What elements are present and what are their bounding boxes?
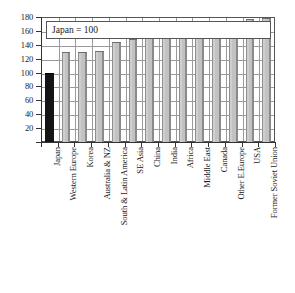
y-tick-60 xyxy=(36,100,41,101)
y-axis-line xyxy=(41,17,42,143)
y-tick-label-140: 140 xyxy=(21,41,33,50)
x-label-other-e-europe: Other E.Europe xyxy=(237,147,246,200)
x-label-south-latin-america: South & Latin America xyxy=(120,147,129,225)
y-tick-label-60: 60 xyxy=(25,96,33,105)
x-label-australia-nz: Australia & NZ xyxy=(103,147,112,200)
bar-africa xyxy=(179,36,188,142)
x-label-japan: Japan xyxy=(53,147,62,166)
y-tick-label-180: 180 xyxy=(21,13,33,22)
x-label-usa: USA xyxy=(253,147,262,164)
y-tick-label-100: 100 xyxy=(21,69,33,78)
x-axis-labels: JapanWestern EuropeKoreaAustralia & NZSo… xyxy=(41,147,275,293)
bar-chart: Japan = 100 20406080100120140160180 Japa… xyxy=(0,0,295,293)
y-tick-120 xyxy=(36,59,41,60)
bar-other-e-europe xyxy=(229,26,238,142)
y-tick-40 xyxy=(36,114,41,115)
bar-south-latin-america xyxy=(112,42,121,142)
x-label-canada: Canada xyxy=(220,147,229,172)
bar-japan xyxy=(45,73,54,142)
x-label-africa: Africa xyxy=(186,147,195,168)
y-tick-140 xyxy=(36,45,41,46)
x-label-se-asia: SE Asia xyxy=(136,147,145,174)
annotation-box: Japan = 100 xyxy=(46,21,271,39)
y-tick-label-20: 20 xyxy=(25,124,33,133)
y-tick-80 xyxy=(36,86,41,87)
bar-india xyxy=(162,36,171,142)
bar-australia-nz xyxy=(95,51,104,142)
x-label-middle-east: Middle East xyxy=(203,147,212,188)
y-tick-label-40: 40 xyxy=(25,110,33,119)
y-tick-160 xyxy=(36,31,41,32)
y-tick-100 xyxy=(36,73,41,74)
y-tick-20 xyxy=(36,128,41,129)
y-tick-label-80: 80 xyxy=(25,82,33,91)
x-label-western-europe: Western Europe xyxy=(69,147,78,201)
y-tick-180 xyxy=(36,17,41,18)
y-tick-label-160: 160 xyxy=(21,27,33,36)
x-label-india: India xyxy=(170,147,179,164)
bar-korea xyxy=(78,52,87,142)
bar-se-asia xyxy=(129,39,138,142)
bar-china xyxy=(145,36,154,142)
bar-western-europe xyxy=(62,52,71,142)
annotation-text: Japan = 100 xyxy=(52,25,98,36)
bar-canada xyxy=(212,32,221,142)
x-label-former-soviet-union: Former Soviet Union xyxy=(270,147,279,218)
bar-middle-east xyxy=(195,32,204,142)
x-label-china: China xyxy=(153,147,162,167)
y-tick-label-120: 120 xyxy=(21,55,33,64)
x-label-korea: Korea xyxy=(86,147,95,168)
